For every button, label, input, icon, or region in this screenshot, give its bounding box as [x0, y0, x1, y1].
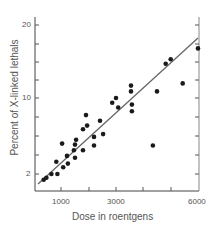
- data-point: [66, 161, 71, 166]
- data-point: [85, 123, 90, 128]
- x-tick-label-6000: 6000: [188, 197, 206, 206]
- y-tick-label-2: 2: [26, 169, 30, 178]
- x-axis-label: Dose in roentgens: [72, 211, 153, 222]
- data-point: [98, 119, 103, 124]
- data-point: [180, 81, 185, 86]
- data-point: [74, 138, 79, 143]
- data-point: [116, 105, 121, 110]
- data-point: [101, 132, 106, 137]
- data-point: [155, 89, 160, 94]
- data-point: [81, 148, 86, 153]
- y-axis-label: Percent of X-linked lethals: [9, 38, 20, 158]
- data-point: [130, 109, 135, 114]
- data-point: [65, 154, 70, 159]
- data-point: [110, 101, 115, 106]
- data-point: [61, 165, 66, 170]
- data-point: [81, 127, 86, 132]
- data-points: [41, 46, 200, 182]
- data-point: [60, 141, 65, 146]
- data-point: [44, 176, 49, 181]
- data-point: [92, 143, 97, 148]
- y-tick-label-10: 10: [22, 93, 31, 102]
- data-point: [114, 96, 119, 101]
- data-point: [163, 61, 168, 66]
- x-tick-label-1000: 1000: [52, 197, 70, 206]
- regression-line: [38, 38, 198, 184]
- data-point: [73, 142, 78, 147]
- data-point: [129, 89, 134, 94]
- data-point: [54, 159, 59, 164]
- y-tick-label-20: 20: [22, 20, 31, 29]
- data-point: [129, 83, 134, 88]
- data-point: [73, 156, 78, 161]
- data-point: [151, 143, 156, 148]
- x-ticks: [61, 187, 171, 191]
- data-point: [130, 102, 135, 107]
- data-point: [72, 148, 77, 153]
- data-point: [168, 57, 173, 62]
- data-point: [196, 46, 201, 51]
- data-point: [55, 172, 60, 177]
- data-point: [49, 172, 54, 177]
- x-tick-label-3000: 3000: [107, 197, 125, 206]
- data-point: [92, 135, 97, 140]
- data-point: [84, 113, 89, 118]
